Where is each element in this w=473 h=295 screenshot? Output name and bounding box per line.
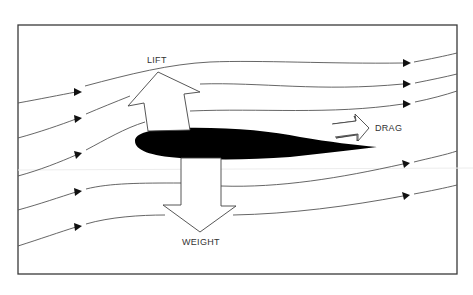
airfoil-forces-diagram: LIFT DRAG WEIGHT	[0, 0, 473, 295]
weight-label: WEIGHT	[182, 237, 220, 247]
lift-label: LIFT	[147, 55, 167, 65]
drag-label: DRAG	[375, 123, 402, 133]
